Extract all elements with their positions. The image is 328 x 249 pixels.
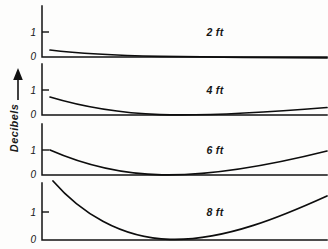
panel-4ft: 1 0 4 ft [30,64,327,120]
panel-2ft-tick-label-zero: 0 [30,51,36,62]
panel-8ft-tick-label-one: 1 [30,207,36,218]
y-axis-title: Decibels [8,104,20,152]
panel-6ft-tick-label-one: 1 [30,145,36,156]
panel-2ft-label: 2 ft [206,26,224,38]
panel-8ft-curve [53,181,327,239]
panel-4ft-axes [42,64,327,115]
decibels-multipanel-figure: Decibels 1 0 2 ft 1 0 4 ft [0,0,328,249]
panel-8ft: 1 0 8 ft [30,181,327,245]
up-arrow-icon [13,68,23,100]
panel-2ft: 1 0 2 ft [30,6,327,62]
panel-8ft-axes [42,183,327,240]
panel-2ft-axes [42,6,327,57]
chart-canvas: Decibels 1 0 2 ft 1 0 4 ft [0,0,328,249]
panel-6ft-label: 6 ft [207,144,224,156]
y-axis-title-group: Decibels [8,68,23,152]
panel-4ft-tick-label-one: 1 [30,85,36,96]
panel-6ft-axes [42,124,327,175]
panel-6ft-curve [50,150,327,175]
panel-6ft-tick-label-zero: 0 [30,169,36,180]
panel-2ft-tick-label-one: 1 [30,27,36,38]
panel-8ft-label: 8 ft [207,206,224,218]
panel-6ft: 1 0 6 ft [30,124,327,180]
panel-4ft-label: 4 ft [206,84,224,96]
panel-4ft-curve [50,97,327,115]
panel-4ft-tick-label-zero: 0 [30,109,36,120]
panel-8ft-tick-label-zero: 0 [30,234,36,245]
